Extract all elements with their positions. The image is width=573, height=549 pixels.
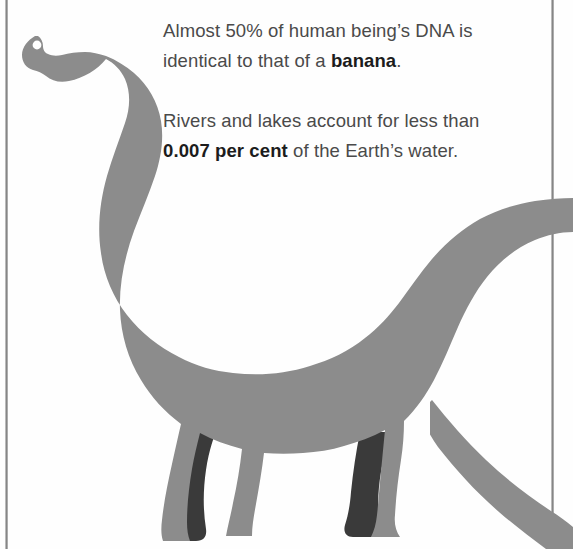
tail-crossing-segment (430, 400, 573, 549)
fact-water-part3: of the Earth’s water. (288, 140, 459, 161)
fact-paragraph-dna: Almost 50% of human being’s DNA is ident… (163, 16, 523, 76)
text-column: Almost 50% of human being’s DNA is ident… (163, 16, 523, 166)
fact-dna-emphasis: banana (331, 50, 396, 71)
tail-over-rule (430, 380, 573, 549)
fact-dna-part3: . (396, 50, 401, 71)
page-canvas: Almost 50% of human being’s DNA is ident… (0, 0, 573, 549)
fact-dna-part1: Almost 50% of human being’s DNA is ident… (163, 20, 473, 71)
fact-paragraph-water: Rivers and lakes account for less than 0… (163, 106, 523, 166)
fact-water-emphasis: 0.007 per cent (163, 140, 288, 161)
dinosaur-eye (33, 41, 42, 50)
fact-water-part1: Rivers and lakes account for less than (163, 110, 479, 131)
